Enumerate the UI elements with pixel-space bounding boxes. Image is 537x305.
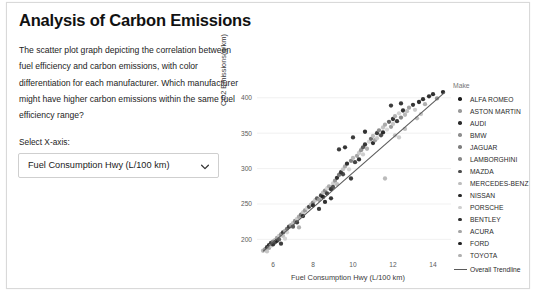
legend-item-label: MERCEDES-BENZ	[467, 180, 529, 187]
legend-dot-icon	[453, 254, 467, 258]
legend-item[interactable]: TOYOTA	[453, 250, 537, 262]
legend-item[interactable]: MAZDA	[453, 165, 537, 177]
legend-dot-icon	[453, 145, 467, 149]
x-axis-title: Fuel Consumption Hwy (L/100 km)	[243, 273, 453, 282]
svg-text:6: 6	[271, 261, 275, 268]
y-axis-title: CO2 Emissions(g/km)	[219, 15, 228, 125]
legend-dot-icon	[453, 218, 467, 222]
legend-title: Make	[453, 82, 537, 89]
legend: Make ALFA ROMEOASTON MARTINAUDIBMWJAGUAR…	[453, 82, 537, 276]
legend-item-label: MAZDA	[467, 168, 494, 175]
legend-item[interactable]: MERCEDES-BENZ	[453, 177, 537, 189]
trendline	[263, 92, 445, 251]
legend-item[interactable]: BMW	[453, 129, 537, 141]
legend-dot-icon	[453, 230, 467, 234]
legend-item-label: FORD	[467, 240, 489, 247]
legend-dot-icon	[453, 194, 467, 198]
scatter-chart: 200250300350400 68101214 CO2 Emissions(g…	[223, 77, 455, 287]
description-text: The scatter plot graph depicting the cor…	[19, 42, 241, 123]
legend-item[interactable]: NISSAN	[453, 189, 537, 201]
legend-item-label: Overall Trendline	[467, 266, 521, 273]
legend-item[interactable]: BENTLEY	[453, 213, 537, 225]
legend-item[interactable]: ASTON MARTIN	[453, 105, 537, 117]
legend-item-label: TOYOTA	[467, 252, 497, 259]
legend-item[interactable]: AUDI	[453, 117, 537, 129]
legend-dot-icon	[453, 242, 467, 246]
bottom-cropped-strip	[0, 297, 537, 305]
legend-item-label: LAMBORGHINI	[467, 156, 517, 163]
legend-dot-icon	[453, 170, 467, 174]
legend-dot-icon	[453, 157, 467, 161]
trendline-swatch-icon	[453, 269, 467, 270]
legend-item-trendline[interactable]: Overall Trendline	[453, 263, 537, 276]
legend-item[interactable]: JAGUAR	[453, 141, 537, 153]
svg-text:400: 400	[241, 94, 252, 101]
legend-item-label: ASTON MARTIN	[467, 108, 521, 115]
legend-dot-icon	[453, 109, 467, 113]
scatter-plot-svg: 200250300350400 68101214	[223, 77, 455, 277]
legend-entries: ALFA ROMEOASTON MARTINAUDIBMWJAGUARLAMBO…	[453, 93, 537, 262]
legend-item-label: AUDI	[467, 120, 486, 127]
legend-dot-icon	[453, 97, 467, 101]
xaxis-select-value: Fuel Consumption Hwy (L/100 km)	[28, 160, 169, 170]
legend-item-label: NISSAN	[467, 192, 495, 199]
legend-item-label: ALFA ROMEO	[467, 96, 514, 103]
legend-dot-icon	[453, 182, 467, 186]
svg-text:8: 8	[311, 261, 315, 268]
legend-item[interactable]: ALFA ROMEO	[453, 93, 537, 105]
svg-text:350: 350	[241, 130, 252, 137]
page-title: Analysis of Carbon Emissions	[19, 11, 251, 30]
y-tick-labels: 200250300350400	[241, 94, 252, 243]
svg-text:10: 10	[349, 261, 357, 268]
grid-lines	[257, 98, 451, 240]
x-tick-labels: 68101214	[271, 261, 437, 268]
legend-dot-icon	[453, 133, 467, 137]
chevron-down-icon	[200, 159, 210, 171]
svg-text:14: 14	[429, 261, 437, 268]
svg-text:200: 200	[241, 236, 252, 243]
legend-item-label: ACURA	[467, 228, 494, 235]
legend-item[interactable]: LAMBORGHINI	[453, 153, 537, 165]
legend-dot-icon	[453, 206, 467, 210]
legend-item-label: JAGUAR	[467, 144, 497, 151]
legend-item[interactable]: FORD	[453, 238, 537, 250]
analysis-card: Analysis of Carbon Emissions The scatter…	[6, 2, 530, 289]
svg-text:250: 250	[241, 200, 252, 207]
legend-item-label: BENTLEY	[467, 216, 501, 223]
legend-item[interactable]: PORSCHE	[453, 201, 537, 213]
svg-text:300: 300	[241, 165, 252, 172]
select-xaxis-label: Select X-axis:	[19, 137, 70, 147]
legend-item-label: PORSCHE	[467, 204, 503, 211]
xaxis-select[interactable]: Fuel Consumption Hwy (L/100 km)	[18, 153, 219, 178]
svg-text:12: 12	[389, 261, 397, 268]
legend-item[interactable]: ACURA	[453, 226, 537, 238]
legend-item-label: BMW	[467, 132, 487, 139]
legend-dot-icon	[453, 121, 467, 125]
